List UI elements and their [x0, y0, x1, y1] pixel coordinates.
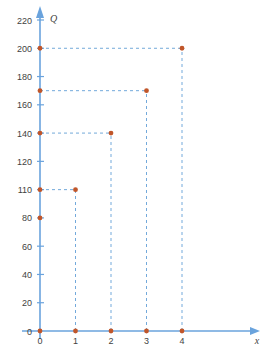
axis-marker	[38, 216, 43, 221]
x-tick-label: 3	[144, 336, 149, 346]
y-tick-label: 220	[17, 16, 32, 26]
y-tick-label: 60	[22, 242, 32, 252]
axis-marker	[38, 88, 43, 93]
x-axis-arrow	[250, 327, 260, 335]
data-point	[109, 329, 114, 334]
x-axis-label: x	[254, 335, 260, 346]
data-point	[144, 88, 149, 93]
y-tick-label: 180	[17, 72, 32, 82]
y-tick-label: 20	[22, 298, 32, 308]
y-tick-label: 80	[22, 213, 32, 223]
data-point	[180, 46, 185, 51]
y-tick-label: 160	[17, 100, 32, 110]
chart-canvas: 02040608011012014016018020022001234Qx	[0, 0, 268, 346]
y-axis-label: Q	[50, 13, 58, 24]
y-tick-label: 120	[17, 157, 32, 167]
x-tick-label: 4	[179, 336, 184, 346]
y-tick-label: 140	[17, 129, 32, 139]
axis-marker	[38, 131, 43, 136]
y-tick-label: 200	[17, 44, 32, 54]
y-axis-arrow	[36, 6, 44, 18]
data-point	[144, 329, 149, 334]
scatter-plot: 02040608011012014016018020022001234Qx	[0, 0, 268, 346]
data-point	[109, 131, 114, 136]
x-tick-label: 0	[37, 336, 42, 346]
x-tick-label: 2	[108, 336, 113, 346]
data-point	[38, 329, 43, 334]
y-tick-label: 110	[18, 185, 32, 195]
data-point	[73, 329, 78, 334]
data-point	[73, 187, 78, 192]
axis-marker	[38, 187, 43, 192]
y-tick-label: 40	[22, 270, 32, 280]
y-tick-label: 0	[27, 327, 32, 337]
data-point	[180, 329, 185, 334]
x-tick-label: 1	[73, 336, 78, 346]
axis-marker	[38, 46, 43, 51]
